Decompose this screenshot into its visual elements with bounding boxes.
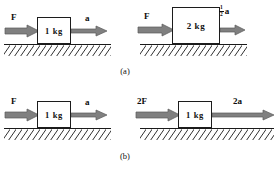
block-label-a-left: 1 kg [45, 26, 63, 36]
force-arrow-b-left [5, 109, 39, 121]
ground-hatching-a-left [4, 45, 111, 56]
fraction-denominator: 2 [219, 11, 224, 18]
ground-hatching-b-right [140, 129, 274, 140]
block-label-b-right: 1 kg [186, 110, 204, 120]
fraction-one-half: 1 2 [219, 5, 224, 17]
caption-a: (a) [100, 66, 150, 76]
acceleration-label-b-left: a [85, 97, 90, 107]
acceleration-arrow-a-right [220, 25, 245, 35]
block-label-a-right: 2 kg [187, 21, 206, 31]
force-label-a-right: F [144, 11, 150, 21]
force-arrow-a-left [5, 25, 39, 37]
force-label-b-left: F [11, 96, 17, 106]
ground-b-left [4, 128, 111, 140]
block-a-right: 2 kg [172, 7, 220, 44]
panel-b-right: 2F 1 kg 2a [138, 85, 276, 163]
block-label-b-left: 1 kg [45, 110, 63, 120]
ground-hatching-b-left [4, 129, 111, 140]
block-a-left: 1 kg [37, 17, 71, 44]
ground-a-right [140, 44, 247, 56]
force-label-b-right: 2F [137, 96, 147, 106]
acceleration-arrow-a-left [71, 26, 107, 36]
ground-a-left [4, 44, 111, 56]
acceleration-label-a-right: 1 2 a [219, 5, 229, 17]
caption-b: (b) [100, 151, 150, 161]
panel-a-right: F 2 kg 1 2 a [138, 0, 276, 78]
acceleration-arrow-b-right [212, 110, 274, 120]
ground-hatching-a-right [140, 45, 247, 56]
force-arrow-b-right [136, 109, 180, 121]
acceleration-label-b-right: 2a [233, 96, 242, 106]
block-b-right: 1 kg [178, 101, 212, 128]
acceleration-arrow-b-left [71, 110, 107, 120]
physics-figure-newtons-second-law: F 1 kg a [0, 0, 276, 170]
acceleration-label-a-left: a [85, 13, 90, 23]
force-arrow-a-right [138, 24, 174, 36]
acceleration-symbol-a-right: a [225, 6, 230, 16]
block-b-left: 1 kg [37, 101, 71, 128]
force-label-a-left: F [11, 12, 17, 22]
ground-b-right [140, 128, 274, 140]
